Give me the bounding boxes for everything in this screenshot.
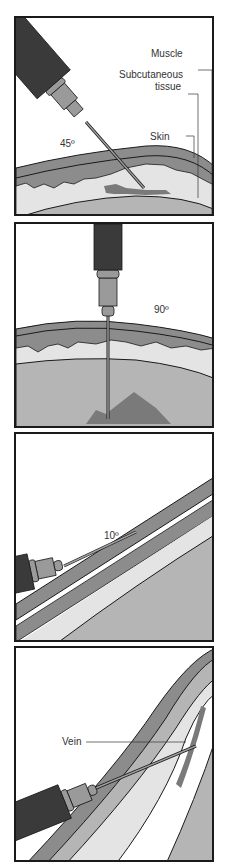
panel-90-degree-injection: 90º bbox=[14, 222, 214, 428]
angle-label: 45º bbox=[60, 138, 75, 149]
injection-90-illustration bbox=[16, 224, 214, 428]
injection-45-illustration bbox=[16, 18, 214, 216]
skin-label: Skin bbox=[150, 131, 169, 142]
tissue-label: tissue bbox=[155, 81, 181, 92]
vein-label: Vein bbox=[62, 736, 81, 747]
injection-iv-illustration bbox=[16, 648, 214, 862]
muscle-label: Muscle bbox=[151, 48, 183, 59]
angle-label: 10º bbox=[104, 530, 119, 541]
panel-intravenous-injection: Vein bbox=[14, 646, 214, 862]
panel-45-degree-injection: Muscle Subcutaneous tissue Skin 45º bbox=[14, 16, 214, 216]
panel-10-degree-injection: 10º bbox=[14, 432, 214, 642]
angle-label: 90º bbox=[154, 304, 169, 315]
subcutaneous-label: Subcutaneous bbox=[119, 69, 183, 80]
